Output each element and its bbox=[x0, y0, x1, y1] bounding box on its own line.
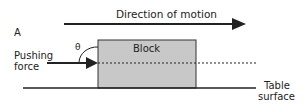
angle-label: θ bbox=[75, 42, 81, 53]
direction-label: Direction of motion bbox=[116, 9, 217, 20]
force-label-line2: force bbox=[14, 61, 39, 72]
pushing-force-arrow bbox=[47, 57, 98, 69]
panel-label: A bbox=[14, 27, 21, 38]
block-label: Block bbox=[133, 43, 160, 54]
surface-label-line2: surface bbox=[258, 91, 295, 102]
surface-label-line1: Table bbox=[264, 80, 290, 91]
force-label-line1: Pushing bbox=[14, 50, 53, 61]
